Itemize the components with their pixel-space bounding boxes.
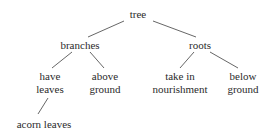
tree-node-label-line2: nourishment: [153, 83, 208, 96]
tree-node-label-line2: leaves: [36, 83, 63, 96]
tree-node-label-line1: below: [230, 70, 257, 82]
tree-node-have-leaves[interactable]: haveleaves: [36, 70, 63, 95]
tree-node-label-line1: tree: [130, 8, 146, 20]
tree-node-branches[interactable]: branches: [60, 39, 99, 52]
tree-edge-branches-have-leaves: [52, 52, 72, 68]
tree-node-below-ground[interactable]: belowground: [227, 70, 258, 95]
tree-node-label-line1: acorn leaves: [17, 118, 72, 130]
tree-edge-tree-roots: [153, 21, 196, 37]
tree-node-above-ground[interactable]: aboveground: [89, 70, 120, 95]
tree-node-label-line1: branches: [60, 39, 99, 51]
tree-edge-roots-take-in-nourishment: [180, 52, 194, 68]
tree-node-label-line1: roots: [189, 39, 211, 51]
tree-diagram: treebranchesrootshaveleavesabovegroundta…: [0, 0, 278, 139]
tree-node-tree[interactable]: tree: [130, 8, 146, 21]
tree-node-label-line1: above: [92, 70, 118, 82]
tree-node-label-line1: take in: [165, 70, 195, 82]
tree-edge-have-leaves-acorn-leaves: [38, 98, 48, 114]
tree-node-acorn-leaves[interactable]: acorn leaves: [17, 118, 72, 131]
tree-node-roots[interactable]: roots: [189, 39, 211, 52]
tree-node-label-line2: ground: [227, 83, 258, 96]
tree-node-take-in-nourishment[interactable]: take innourishment: [153, 70, 208, 95]
tree-node-label-line1: have: [40, 70, 61, 82]
tree-edge-tree-branches: [88, 21, 124, 37]
tree-edge-branches-above-ground: [90, 52, 104, 68]
tree-edge-roots-below-ground: [210, 52, 238, 68]
tree-node-label-line2: ground: [89, 83, 120, 96]
